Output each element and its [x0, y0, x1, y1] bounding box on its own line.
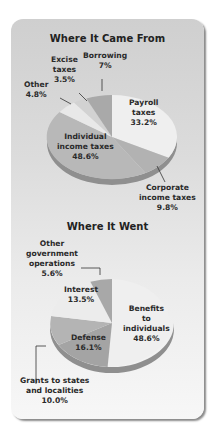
label-benefits: Benefitstoindividuals48.6%: [123, 304, 170, 344]
bottom-chart-title: Where It Went: [11, 221, 204, 232]
label-defense: Defense16.1%: [71, 333, 106, 353]
label-excise: Excisetaxes3.5%: [51, 55, 78, 85]
label-other: Other4.8%: [24, 80, 48, 100]
label-individual: Individualincome taxes48.6%: [57, 132, 114, 162]
label-borrowing: Borrowing7%: [83, 51, 127, 71]
pie-charts: [11, 19, 204, 419]
label-payroll: Payrolltaxes33.2%: [129, 98, 158, 128]
label-other-ops: Othergovernmentoperations5.6%: [26, 239, 78, 279]
label-corporate: Corporateincome taxes9.8%: [139, 183, 196, 213]
label-grants: Grants to statesand localities10.0%: [20, 376, 89, 406]
label-interest: Interest13.5%: [64, 285, 98, 305]
chart-card: Where It Came From: [11, 19, 204, 419]
